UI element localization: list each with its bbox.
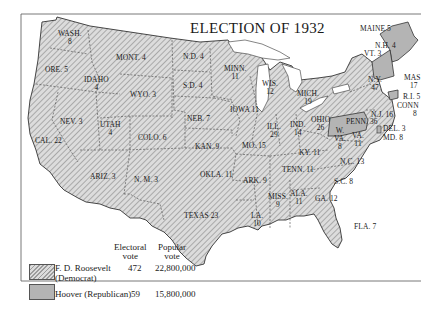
state-label-wis: WIS.12 xyxy=(262,80,278,96)
state-label-wyo: WYO. 3 xyxy=(130,91,156,99)
state-label-ind: IND.14 xyxy=(290,121,306,137)
state-label-ny: N.Y.47 xyxy=(368,76,382,92)
legend-header-electoral: Electoralvote xyxy=(114,243,146,261)
state-label-penn: PENN. 36 xyxy=(346,118,378,126)
state-label-nd: N.D. 4 xyxy=(183,53,204,61)
state-label-vt: VT. 3 xyxy=(364,50,381,58)
state-label-nc: N.C. 13 xyxy=(340,158,364,166)
state-label-la: LA.10 xyxy=(251,212,263,228)
state-label-ill: ILL.29 xyxy=(267,123,281,139)
state-label-ariz: ARIZ. 3 xyxy=(90,173,116,181)
state-label-wash: WASH.8 xyxy=(58,30,82,46)
state-label-kan: KAN. 9 xyxy=(195,143,219,151)
state-label-colo: COLO. 6 xyxy=(138,134,167,142)
legend-swatch-democrat xyxy=(29,264,55,280)
legend-republican-popular: 15,800,000 xyxy=(155,289,196,299)
state-label-ark: ARK. 9 xyxy=(243,177,267,185)
state-label-idaho: IDAHO4 xyxy=(84,76,109,92)
state-conn-republican xyxy=(388,90,398,100)
state-del-republican xyxy=(377,126,381,133)
state-label-maine: MAINE 5 xyxy=(360,25,391,33)
state-label-minn: MINN.11 xyxy=(224,65,246,81)
state-label-okla: OKLA. 11 xyxy=(200,171,233,179)
state-label-ga: GA. 12 xyxy=(315,195,338,203)
legend-header-popular: Popularvote xyxy=(158,243,186,261)
state-label-miss: MISS.9 xyxy=(268,193,288,209)
state-label-fla: FLA. 7 xyxy=(354,223,376,231)
map-title: ELECTION OF 1932 xyxy=(190,20,325,37)
state-label-ala: ALA.11 xyxy=(290,190,308,206)
legend-swatch-republican xyxy=(29,284,55,300)
state-label-texas: TEXAS 23 xyxy=(184,212,218,220)
legend-democrat-electoral: 472 xyxy=(128,263,142,273)
legend-republican-electoral: 59 xyxy=(131,289,140,299)
state-label-mo: MO. 15 xyxy=(242,142,266,150)
state-label-va: VA.11 xyxy=(352,132,364,148)
legend-democrat-popular: 22,800,000 xyxy=(155,263,196,273)
state-label-sc: S.C. 8 xyxy=(334,178,353,186)
state-label-iowa: IOWA 11 xyxy=(230,106,259,114)
state-label-mass: MAS17 xyxy=(404,74,421,90)
state-label-sd: S.D. 4 xyxy=(183,82,203,90)
state-label-conn: CONN8 xyxy=(397,102,419,118)
state-label-ky: KY. 11 xyxy=(299,149,320,157)
state-label-ri: R.I. 5 xyxy=(403,93,420,101)
state-label-tenn: TENN. 11 xyxy=(282,166,314,174)
state-label-ohio: OHIO26 xyxy=(311,116,330,132)
state-label-wva: W.VA.8 xyxy=(334,127,346,151)
state-label-utah: UTAH4 xyxy=(100,121,121,137)
state-label-del: DEL. 3 xyxy=(383,125,406,133)
state-label-mich: MICH.19 xyxy=(297,90,319,106)
legend-democrat-candidate: F. D. Roosevelt(Democrat) xyxy=(55,263,111,283)
legend-republican-candidate: Hoover (Republican) xyxy=(55,289,131,299)
state-label-nev: NEV. 3 xyxy=(60,118,83,126)
state-label-mont: MONT. 4 xyxy=(116,54,146,62)
state-label-md: MD. 8 xyxy=(383,134,403,142)
state-label-nm: N. M. 3 xyxy=(134,176,158,184)
state-label-cal: CAL. 22 xyxy=(35,137,62,145)
state-label-ore: ORE. 5 xyxy=(45,66,68,74)
state-label-neb: NEB. 7 xyxy=(187,115,210,123)
